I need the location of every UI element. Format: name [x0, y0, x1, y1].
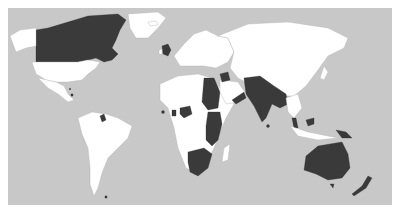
ireland	[159, 49, 162, 54]
new-zealand	[352, 176, 372, 196]
world-map-svg	[8, 8, 392, 205]
indochina	[286, 94, 302, 118]
jamaica	[71, 94, 73, 96]
ghana	[172, 110, 176, 116]
iceland	[148, 21, 158, 26]
sri-lanka	[267, 125, 270, 128]
usa	[32, 60, 100, 82]
greenland	[128, 12, 166, 38]
united-kingdom	[162, 44, 171, 56]
iraq-jordan	[220, 72, 230, 82]
egypt-sudan	[202, 78, 220, 110]
alaska	[10, 28, 36, 52]
world-map	[8, 8, 392, 205]
southern-africa	[188, 148, 212, 176]
falklands	[105, 196, 107, 198]
sierra-leone	[162, 111, 165, 114]
australia	[304, 142, 350, 180]
malaysia	[292, 118, 298, 128]
tasmania	[330, 184, 334, 188]
bahamas	[69, 88, 71, 90]
south-america	[78, 112, 132, 196]
papua-new-guinea	[336, 130, 352, 138]
east-africa	[206, 112, 222, 146]
borneo-north	[306, 118, 314, 126]
canada	[36, 14, 126, 62]
madagascar	[222, 144, 230, 162]
japan	[320, 66, 328, 80]
